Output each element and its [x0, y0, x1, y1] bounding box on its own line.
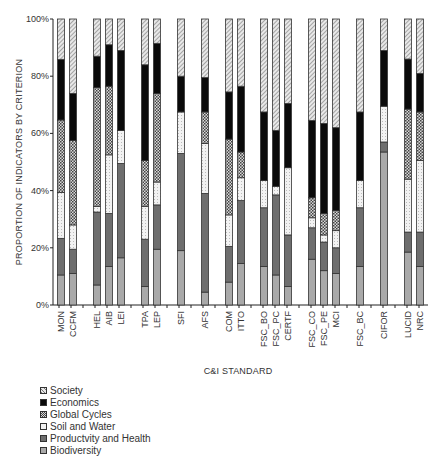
- segment-biodiversity: [118, 258, 125, 305]
- segment-society: [202, 19, 209, 78]
- segment-biodiversity: [238, 264, 245, 305]
- legend-swatch-icon: [40, 447, 47, 454]
- category-label: FSC_CO: [307, 311, 317, 348]
- segment-soil-and-water: [178, 112, 185, 153]
- segment-biodiversity: [226, 282, 233, 305]
- segment-global-cycles: [70, 141, 77, 225]
- segment-society: [154, 19, 161, 43]
- category-label: CIFOR: [379, 311, 389, 339]
- segment-productvity-and-health: [405, 232, 412, 252]
- segment-economics: [154, 43, 161, 93]
- category-label: FSC_PC: [271, 311, 281, 347]
- segment-soil-and-water: [118, 131, 125, 164]
- segment-society: [178, 19, 185, 76]
- segment-society: [106, 19, 113, 45]
- bar-certf: [285, 19, 292, 305]
- segment-biodiversity: [309, 259, 316, 305]
- segment-economics: [261, 112, 268, 181]
- segment-economics: [238, 86, 245, 152]
- segment-biodiversity: [94, 285, 101, 305]
- segment-society: [58, 19, 65, 59]
- segment-economics: [309, 121, 316, 198]
- segment-soil-and-water: [202, 143, 209, 193]
- segment-economics: [357, 112, 364, 181]
- category-label: LEP: [152, 311, 162, 328]
- category-label: FSC_PE: [319, 311, 329, 346]
- segment-global-cycles: [58, 120, 65, 193]
- category-label: HEL: [92, 311, 102, 329]
- segment-productvity-and-health: [285, 235, 292, 286]
- segment-productvity-and-health: [118, 163, 125, 257]
- legend-item-biodiversity: Biodiversity: [40, 444, 151, 456]
- category-label: LUCID: [403, 311, 413, 339]
- category-label: COM: [224, 311, 234, 332]
- bar-lucid: [405, 19, 412, 305]
- y-tick-label: 20%: [31, 243, 49, 253]
- segment-productvity-and-health: [178, 153, 185, 250]
- category-label: TPA: [140, 311, 150, 328]
- bar-com: [226, 19, 233, 305]
- category-label: ITTO: [236, 311, 246, 331]
- y-tick-label: 40%: [31, 186, 49, 196]
- segment-soil-and-water: [238, 178, 245, 201]
- y-tick-label: 60%: [31, 128, 49, 138]
- segment-soil-and-water: [106, 155, 113, 214]
- segment-soil-and-water: [381, 106, 388, 142]
- segment-soil-and-water: [333, 231, 340, 248]
- y-tick-label: 80%: [31, 71, 49, 81]
- segment-soil-and-water: [261, 181, 268, 208]
- segment-global-cycles: [142, 161, 149, 207]
- segment-productvity-and-health: [154, 205, 161, 249]
- bar-fsc_pe: [321, 19, 328, 305]
- bar-aib: [106, 19, 113, 305]
- bar-ccfm: [70, 19, 77, 305]
- segment-global-cycles: [405, 109, 412, 179]
- bar-nrc: [417, 19, 424, 305]
- bar-lei: [118, 19, 125, 305]
- segment-soil-and-water: [417, 161, 424, 233]
- segment-productvity-and-health: [309, 228, 316, 259]
- segment-productvity-and-health: [321, 242, 328, 271]
- segment-soil-and-water: [309, 218, 316, 228]
- segment-biodiversity: [154, 249, 161, 305]
- segment-soil-and-water: [142, 206, 149, 239]
- segment-productvity-and-health: [238, 201, 245, 264]
- segment-society: [285, 19, 292, 103]
- segment-economics: [273, 131, 280, 187]
- segment-soil-and-water: [321, 235, 328, 242]
- segment-productvity-and-health: [94, 212, 101, 285]
- segment-soil-and-water: [273, 186, 280, 195]
- segment-productvity-and-health: [226, 246, 233, 282]
- category-label: NRC: [415, 311, 425, 331]
- segment-soil-and-water: [285, 168, 292, 235]
- segment-productvity-and-health: [333, 248, 340, 274]
- legend-swatch-icon: [40, 423, 47, 430]
- category-labels: MONCCFMHELAIBLEITPALEPSFIAFSCOMITTOFSC_B…: [56, 311, 425, 348]
- legend-item-soil-and-water: Soil and Water: [40, 420, 151, 432]
- segment-soil-and-water: [405, 179, 412, 232]
- segment-economics: [94, 56, 101, 87]
- category-label: AFS: [200, 311, 210, 329]
- legend-swatch-icon: [40, 411, 47, 418]
- legend-label: Society: [50, 385, 83, 396]
- segment-productvity-and-health: [357, 208, 364, 267]
- y-tick-label: 0%: [36, 300, 49, 310]
- bar-fsc_bo: [261, 19, 268, 305]
- segment-biodiversity: [261, 266, 268, 305]
- legend-item-economics: Economics: [40, 396, 151, 408]
- segment-economics: [285, 103, 292, 167]
- segment-global-cycles: [333, 211, 340, 231]
- chart-bars: [58, 19, 424, 305]
- segment-biodiversity: [202, 292, 209, 305]
- legend-item-society: Society: [40, 384, 151, 396]
- segment-biodiversity: [357, 266, 364, 305]
- legend-label: Soil and Water: [50, 421, 115, 432]
- segment-global-cycles: [154, 93, 161, 182]
- legend-swatch-icon: [40, 435, 47, 442]
- segment-productvity-and-health: [142, 239, 149, 286]
- segment-soil-and-water: [94, 206, 101, 212]
- segment-productvity-and-health: [381, 142, 388, 152]
- legend-label: Productvity and Health: [50, 433, 151, 444]
- segment-economics: [417, 73, 424, 112]
- category-label: FSC_BC: [355, 311, 365, 347]
